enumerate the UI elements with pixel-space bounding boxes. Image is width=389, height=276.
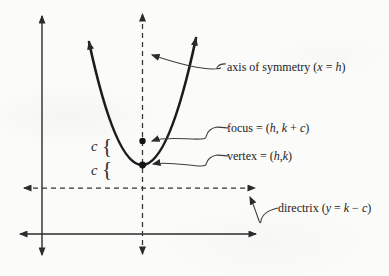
focus-label-text: focus = (: [227, 121, 270, 135]
focus-plus: +: [287, 121, 300, 135]
figure-canvas: { { c c: [0, 0, 389, 276]
directrix-leader-arrow: [250, 197, 278, 223]
parabola-focus-directrix-figure: { { c c axis of symmetry (x = h) focus =…: [0, 0, 389, 276]
vertex-leader-arrow: [153, 155, 228, 166]
focus-leader-arrow: [152, 127, 228, 141]
distance-c-lower-label: c: [91, 162, 98, 178]
focus-label: focus = (h, k + c): [227, 121, 309, 135]
directrix-minus: −: [349, 201, 362, 215]
focus-dot: [139, 138, 145, 144]
vertex-label-text: vertex = (: [227, 149, 274, 163]
axis-of-symmetry-close-paren: ): [341, 60, 345, 74]
axis-of-symmetry-label-text: axis of symmetry (: [227, 60, 317, 74]
directrix-equals: =: [331, 201, 344, 215]
directrix-label-text: directrix (: [278, 201, 326, 215]
directrix-close-paren: ): [367, 201, 371, 215]
axis-of-symmetry-label: axis of symmetry (x = h): [227, 60, 345, 74]
upper-brace: {: [102, 134, 112, 158]
focus-close-paren: ): [305, 121, 309, 135]
lower-brace: {: [102, 157, 112, 181]
vertex-dot: [139, 162, 146, 169]
vertex-close-paren: ): [288, 149, 292, 163]
axis-of-symmetry-equals: =: [323, 60, 336, 74]
distance-c-upper-label: c: [91, 138, 98, 154]
directrix-label: directrix (y = k − c): [278, 201, 371, 215]
vertex-label: vertex = (h,k): [227, 149, 292, 163]
